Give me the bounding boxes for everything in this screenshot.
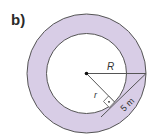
annulus-diagram: R r 5 m — [0, 0, 155, 137]
outer-radius-label: R — [107, 61, 114, 72]
center-point — [85, 72, 89, 76]
right-angle-dot — [108, 101, 110, 103]
